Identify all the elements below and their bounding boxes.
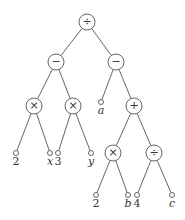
tree-edge xyxy=(119,69,131,98)
operator-label: − xyxy=(111,56,120,67)
tree-edge xyxy=(76,113,90,150)
operator-label: × xyxy=(108,147,117,158)
leaf-label: 2 xyxy=(13,156,20,167)
tree-edge xyxy=(59,69,70,98)
tree-edge xyxy=(116,113,130,145)
tree-canvas xyxy=(0,0,185,220)
tree-edge xyxy=(97,160,110,192)
leaf-label: y xyxy=(88,156,94,167)
tree-edge xyxy=(61,28,82,55)
tree-edge xyxy=(102,69,113,99)
leaf-label: 3 xyxy=(55,156,62,167)
tree-edge xyxy=(157,160,171,192)
leaf-label: c xyxy=(169,198,175,209)
operator-label: × xyxy=(68,100,77,111)
leaf-label: 4 xyxy=(134,198,141,209)
tree-edge xyxy=(17,113,31,150)
operator-label: − xyxy=(51,56,60,67)
tree-edge xyxy=(138,160,151,192)
tree-edge xyxy=(137,113,151,145)
operator-label: ÷ xyxy=(149,147,158,158)
tree-edge xyxy=(116,161,127,193)
leaf-label: x xyxy=(47,156,53,167)
expression-tree-diagram: ÷−−××a+2x3y×÷2b4c xyxy=(0,0,185,220)
tree-edge xyxy=(38,69,53,99)
tree-edge xyxy=(59,114,71,151)
tree-edge xyxy=(92,28,112,55)
leaf-label: b xyxy=(124,198,131,209)
leaf-label: 2 xyxy=(93,198,100,209)
leaf-label: a xyxy=(98,105,105,116)
tree-edge xyxy=(37,114,50,151)
operator-label: + xyxy=(129,100,138,111)
operator-label: × xyxy=(29,100,38,111)
operator-label: ÷ xyxy=(82,16,91,27)
